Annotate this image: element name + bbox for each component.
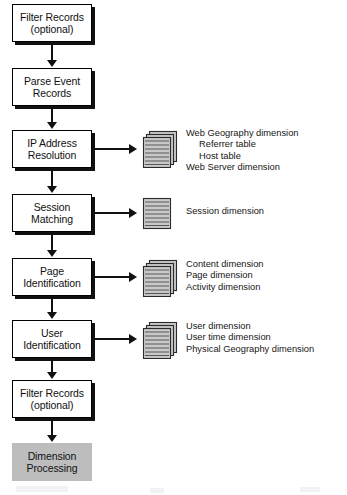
output-label: Host table (186, 151, 299, 162)
process-box-line2: Matching (31, 213, 73, 226)
output-connector-page-identification (95, 276, 130, 278)
document-stack-icon[interactable] (141, 257, 181, 297)
flow-arrowhead-2 (47, 122, 57, 129)
flow-arrowhead-3 (47, 186, 57, 193)
process-box-dimension-processing[interactable]: Dimension Processing (12, 443, 92, 481)
output-label: Activity dimension (186, 282, 264, 293)
process-box-line1: Dimension (28, 450, 77, 463)
process-box-filter-records-top[interactable]: Filter Records (optional) (12, 4, 92, 42)
flow-arrowhead-7 (47, 435, 57, 442)
process-box-user-identification[interactable]: User Identification (12, 320, 92, 358)
document-stack-icon[interactable] (141, 319, 181, 359)
output-label: Web Geography dimension (186, 128, 299, 139)
scan-artifact (16, 486, 68, 492)
process-box-line1: Page (40, 265, 64, 278)
process-box-line1: Filter Records (20, 11, 84, 24)
document-single-icon[interactable] (141, 196, 181, 232)
process-box-filter-records-bottom[interactable]: Filter Records (optional) (12, 380, 92, 418)
flow-connector-1 (51, 45, 53, 61)
output-connector-ip-address (95, 148, 130, 150)
output-label: User time dimension (186, 332, 314, 343)
output-arrowhead-page-identification (129, 272, 137, 282)
scan-artifact (150, 488, 164, 493)
output-label: Session dimension (186, 206, 264, 217)
output-connector-user-identification (95, 338, 130, 340)
output-label-group-ip-address: Web Geography dimension Referrer table H… (186, 128, 299, 174)
process-box-line1: Session (34, 201, 71, 214)
document-stack-icon[interactable] (141, 128, 181, 168)
process-box-line1: User (41, 327, 63, 340)
output-label: Page dimension (186, 270, 264, 281)
flow-arrowhead-4 (47, 250, 57, 257)
process-box-line1: Filter Records (20, 387, 84, 400)
output-label: Referrer table (186, 139, 299, 150)
output-arrowhead-user-identification (129, 334, 137, 344)
flow-connector-7 (51, 421, 53, 436)
process-box-line2: Identification (23, 277, 81, 290)
flow-arrowhead-5 (47, 312, 57, 319)
output-label: Content dimension (186, 259, 264, 270)
flow-arrowhead-1 (47, 60, 57, 67)
output-label: User dimension (186, 321, 314, 332)
process-box-ip-address-resolution[interactable]: IP Address Resolution (12, 130, 92, 168)
process-box-line2: Records (33, 87, 71, 100)
output-arrowhead-session-matching (129, 208, 137, 218)
process-box-page-identification[interactable]: Page Identification (12, 258, 92, 296)
process-box-line1: IP Address (27, 137, 77, 150)
flow-arrowhead-6 (47, 372, 57, 379)
flow-connector-2 (51, 109, 53, 123)
flow-connector-5 (51, 299, 53, 313)
output-label-group-page-identification: Content dimension Page dimension Activit… (186, 259, 264, 293)
scan-artifact (300, 487, 320, 492)
process-box-line2: (optional) (31, 23, 74, 36)
process-box-line2: Processing (27, 462, 78, 475)
flow-connector-4 (51, 235, 53, 251)
process-box-line2: (optional) (31, 399, 74, 412)
flowchart-canvas: Filter Records (optional) Parse Event Re… (0, 0, 347, 495)
output-connector-session-matching (95, 212, 130, 214)
output-label-group-session-matching: Session dimension (186, 206, 264, 217)
process-box-line2: Resolution (28, 149, 77, 162)
process-box-parse-event-records[interactable]: Parse Event Records (12, 68, 92, 106)
process-box-session-matching[interactable]: Session Matching (12, 194, 92, 232)
process-box-line1: Parse Event (24, 75, 80, 88)
output-label: Web Server dimension (186, 162, 299, 173)
flow-connector-3 (51, 171, 53, 187)
output-arrowhead-ip-address (129, 144, 137, 154)
output-label-group-user-identification: User dimension User time dimension Physi… (186, 321, 314, 355)
process-box-line2: Identification (23, 339, 81, 352)
output-label: Physical Geography dimension (186, 344, 314, 355)
